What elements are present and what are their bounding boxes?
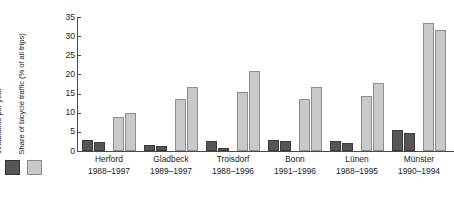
bar [113,117,124,151]
legend-label-line2: inhabitants per year [0,2,4,154]
bar [175,99,186,151]
x-label-city: Lünen [330,154,384,166]
bar-group-münster [392,0,454,151]
bar [361,96,372,152]
bar [330,141,341,151]
bar [144,145,155,151]
bar-series-container [78,0,454,151]
x-axis-labels: Herford1988–1997Gladbeck1989–1997Troisdo… [78,154,454,186]
legend-swatch-light [27,160,42,175]
x-axis-group-label: Münster1990–1994 [392,154,446,177]
bar [392,130,403,151]
bar [268,140,279,151]
y-tick-mark [77,151,81,152]
bar [94,142,105,151]
y-tick-label: 10 [65,107,75,117]
y-tick: 0 [77,151,81,152]
y-tick-label: 15 [65,88,75,98]
x-axis-line [77,151,454,152]
x-label-years: 1990–1994 [392,166,446,178]
legend-label-line1: Share of bicycle traffic (% of all trips… [17,2,26,154]
legend-swatch-dark [5,160,20,175]
bar [280,141,291,151]
y-tick-label: 5 [70,126,75,136]
x-label-years: 1989–1997 [144,166,198,178]
x-label-city: Münster [392,154,446,166]
bar [311,87,322,151]
x-label-city: Gladbeck [144,154,198,166]
y-tick-label: 35 [65,12,75,22]
bar [125,113,136,151]
bar [373,83,384,151]
x-axis-group-label: Lünen1988–1995 [330,154,384,177]
x-label-years: 1988–1995 [330,166,384,178]
y-tick-label: 25 [65,50,75,60]
bar [206,141,217,151]
legend-label-bicycle-share: Share of bicycle traffic (% of all trips… [26,2,50,154]
x-label-years: 1988–1996 [206,166,260,178]
chart-legend: Seriously injured cyclists/10,000 inhabi… [0,0,52,201]
bar [237,92,248,151]
x-label-city: Herford [82,154,136,166]
bar [156,146,167,151]
bar [299,99,310,151]
x-axis-group-label: Gladbeck1989–1997 [144,154,198,177]
bar-group-lünen [330,0,392,151]
y-tick-label: 30 [65,31,75,41]
x-axis-group-label: Troisdorf1988–1996 [206,154,260,177]
plot-area: 35302520151050 Herford1988–1997Gladbeck1… [52,0,454,201]
bar [187,87,198,151]
bar [342,143,353,151]
bar [249,71,260,151]
x-label-years: 1991–1996 [268,166,322,178]
bar [423,23,434,151]
y-tick-label: 20 [65,69,75,79]
bar-chart: Seriously injured cyclists/10,000 inhabi… [0,0,454,201]
bar-group-herford [82,0,144,151]
x-axis-group-label: Bonn1991–1996 [268,154,322,177]
bar [82,140,93,151]
legend-entry-bicycle-share: Share of bicycle traffic (% of all trips… [26,0,50,175]
x-label-city: Troisdorf [206,154,260,166]
bar [404,133,415,151]
x-label-years: 1988–1997 [82,166,136,178]
bar [218,148,229,151]
y-tick-label: 0 [70,146,75,156]
bar-group-troisdorf [206,0,268,151]
x-label-city: Bonn [268,154,322,166]
bar [435,30,446,151]
bar-group-bonn [268,0,330,151]
bar-group-gladbeck [144,0,206,151]
x-axis-group-label: Herford1988–1997 [82,154,136,177]
